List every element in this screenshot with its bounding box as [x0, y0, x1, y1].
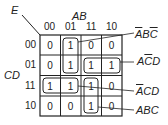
kmap-cell: 1	[102, 56, 122, 76]
kmap-cell: 0	[102, 96, 122, 116]
group-term-label: ACD	[137, 56, 160, 67]
col-label: 10	[106, 22, 117, 32]
kmap-cell: 0	[40, 56, 60, 76]
kmap-cell: 1	[81, 56, 101, 76]
col-label: 00	[44, 22, 55, 32]
kmap-cell: 0	[102, 35, 122, 55]
corner-var-label: E	[11, 5, 18, 16]
kmap-cell: 1	[81, 96, 101, 116]
kmap-cell: 1	[40, 76, 60, 96]
kmap-cell: 0	[81, 35, 101, 55]
row-label: 10	[25, 101, 36, 111]
group-term-label: ACD	[136, 86, 159, 97]
row-label: 00	[25, 40, 36, 50]
kmap-cell: 1	[61, 35, 81, 55]
kmap-cell: 0	[40, 35, 60, 55]
col-label: 11	[86, 22, 96, 32]
kmap-cell: 1	[61, 76, 81, 96]
kmap-cell: 1	[81, 76, 101, 96]
kmap-cell: 0	[40, 96, 60, 116]
group-term-label: ABC	[136, 105, 159, 116]
kmap-cell: 0	[102, 76, 122, 96]
kmap-cell: 1	[61, 56, 81, 76]
group-term-label: ABC	[135, 29, 158, 40]
row-label: 01	[25, 60, 36, 70]
col-label: 01	[65, 22, 76, 32]
kmap-cell: 0	[61, 96, 81, 116]
row-label: 11	[25, 81, 35, 91]
row-var-label: CD	[4, 70, 20, 81]
